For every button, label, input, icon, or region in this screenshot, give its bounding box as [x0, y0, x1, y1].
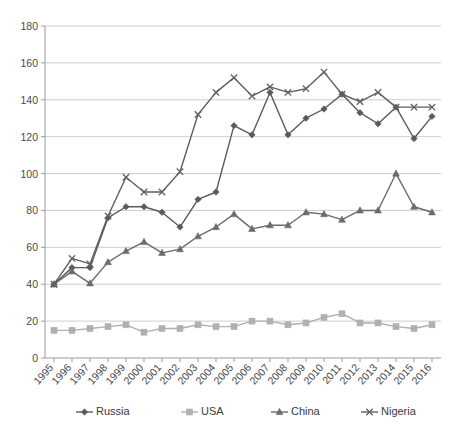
- marker-square: [357, 320, 363, 326]
- series-russia: [51, 89, 435, 287]
- legend-item-russia[interactable]: Russia: [76, 405, 131, 417]
- y-tick-label: 0: [32, 352, 38, 364]
- series-china: [51, 170, 436, 287]
- marker-square: [339, 311, 345, 317]
- marker-triangle: [141, 238, 148, 244]
- y-tick-label: 180: [20, 20, 38, 32]
- marker-triangle: [177, 246, 184, 252]
- y-tick-label: 100: [20, 168, 38, 180]
- marker-cross: [231, 74, 237, 80]
- marker-triangle: [231, 211, 238, 217]
- axes: [45, 26, 441, 358]
- y-tick-label: 60: [26, 241, 38, 253]
- legend-item-usa[interactable]: USA: [181, 405, 224, 417]
- marker-square: [69, 327, 75, 333]
- marker-square: [411, 325, 417, 331]
- marker-square: [393, 324, 399, 330]
- x-tick-label: 2016: [409, 361, 434, 387]
- marker-cross: [123, 174, 129, 180]
- marker-square: [321, 314, 327, 320]
- marker-square: [187, 409, 193, 415]
- x-axis-ticks: 1995199619971998199920002001200220032004…: [31, 358, 434, 387]
- marker-diamond: [231, 122, 237, 128]
- marker-square: [375, 320, 381, 326]
- series-line: [54, 174, 432, 285]
- marker-square: [105, 324, 111, 330]
- marker-diamond: [213, 189, 219, 195]
- marker-square: [213, 324, 219, 330]
- legend: RussiaUSAChinaNigeria: [76, 405, 417, 417]
- marker-diamond: [81, 409, 87, 415]
- legend-label: China: [291, 405, 321, 417]
- marker-square: [87, 325, 93, 331]
- marker-square: [159, 325, 165, 331]
- marker-triangle: [303, 209, 310, 215]
- marker-diamond: [267, 89, 273, 95]
- marker-diamond: [141, 204, 147, 210]
- marker-cross: [249, 93, 255, 99]
- marker-square: [141, 329, 147, 335]
- y-tick-label: 160: [20, 57, 38, 69]
- marker-square: [231, 324, 237, 330]
- legend-label: USA: [201, 405, 224, 417]
- series-line: [54, 92, 432, 284]
- y-tick-label: 80: [26, 204, 38, 216]
- legend-item-china[interactable]: China: [271, 405, 321, 417]
- marker-square: [249, 318, 255, 324]
- y-tick-label: 20: [26, 315, 38, 327]
- y-tick-label: 120: [20, 131, 38, 143]
- series-nigeria: [51, 69, 435, 288]
- legend-item-nigeria[interactable]: Nigeria: [361, 405, 417, 417]
- series-line: [54, 72, 432, 284]
- marker-square: [429, 322, 435, 328]
- marker-cross: [375, 89, 381, 95]
- legend-label: Russia: [96, 405, 131, 417]
- marker-square: [267, 318, 273, 324]
- marker-triangle: [213, 223, 220, 229]
- marker-square: [51, 327, 57, 333]
- marker-cross: [213, 89, 219, 95]
- marker-triangle: [105, 258, 112, 264]
- marker-diamond: [123, 204, 129, 210]
- marker-triangle: [393, 170, 400, 176]
- line-chart: 0204060801001201401601801995199619971998…: [0, 0, 456, 431]
- marker-triangle: [411, 203, 418, 209]
- grid-lines: [45, 26, 441, 321]
- series-usa: [51, 311, 435, 335]
- chart-canvas: 0204060801001201401601801995199619971998…: [0, 0, 456, 431]
- marker-square: [177, 325, 183, 331]
- marker-square: [285, 322, 291, 328]
- marker-square: [303, 320, 309, 326]
- marker-square: [195, 322, 201, 328]
- legend-label: Nigeria: [381, 405, 417, 417]
- y-tick-label: 140: [20, 94, 38, 106]
- marker-square: [123, 322, 129, 328]
- y-tick-label: 40: [26, 278, 38, 290]
- y-axis-ticks: 020406080100120140160180: [20, 20, 45, 364]
- marker-cross: [321, 69, 327, 75]
